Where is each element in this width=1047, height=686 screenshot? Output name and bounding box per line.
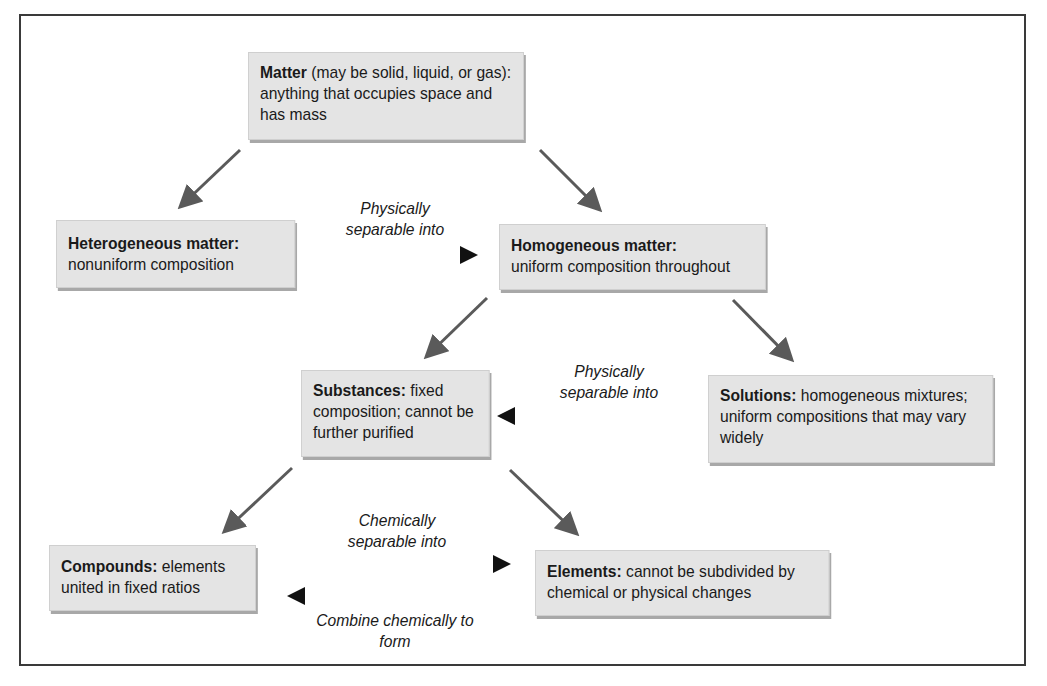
node-solutions-title: Solutions: <box>720 386 796 405</box>
edge-label-comp-to-elem: Chemically separable into <box>328 510 466 552</box>
node-homogeneous-title: Homogeneous matter: <box>511 236 677 255</box>
arrow-matter-to-heterogeneous <box>182 150 240 205</box>
node-elements-title: Elements: <box>547 562 622 581</box>
edge-label-het-to-hom: Physically separable into <box>326 198 464 240</box>
node-solutions: Solutions: homogeneous mixtures; uniform… <box>708 375 993 463</box>
arrow-homogeneous-to-substances <box>428 298 487 355</box>
arrow-substances-to-elements <box>510 470 575 532</box>
node-substances-title: Substances: <box>313 381 406 400</box>
edge-label-sol-to-sub: Physically separable into <box>540 361 678 403</box>
node-homogeneous: Homogeneous matter: uniform composition … <box>499 224 766 290</box>
arrow-homogeneous-to-solutions <box>733 300 790 358</box>
arrow-matter-to-homogeneous <box>540 150 598 208</box>
edge-label-elem-to-comp: Combine chemically to form <box>308 610 483 652</box>
node-substances: Substances: fixed composition; cannot be… <box>301 370 490 457</box>
node-heterogeneous: Heterogeneous matter: nonuniform composi… <box>56 220 295 288</box>
arrow-substances-to-compounds <box>226 468 292 530</box>
node-compounds: Compounds: elements united in fixed rati… <box>49 545 256 611</box>
node-matter-title: Matter <box>260 63 307 82</box>
node-elements: Elements: cannot be subdivided by chemic… <box>535 550 829 616</box>
node-matter: Matter (may be solid, liquid, or gas): a… <box>248 52 524 140</box>
node-compounds-title: Compounds: <box>61 557 157 576</box>
node-heterogeneous-title: Heterogeneous matter: <box>68 234 239 253</box>
